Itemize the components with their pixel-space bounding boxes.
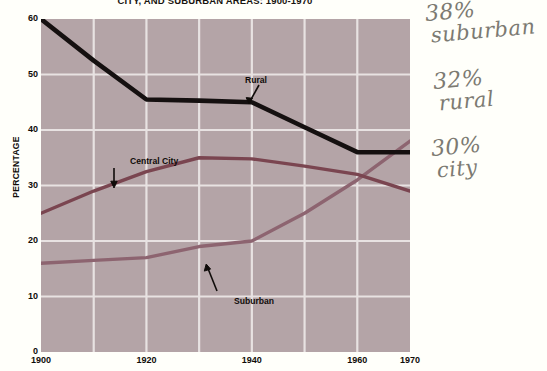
horizontal-gridlines	[41, 75, 410, 297]
suburban-leader-arrowhead	[204, 264, 210, 271]
y-tick-60: 60	[2, 13, 38, 23]
annotation-leaders	[111, 85, 259, 291]
handwritten-note-suburban: 38% suburban	[424, 0, 536, 47]
series-label-central-city: Central City	[130, 156, 178, 166]
x-tick-1900: 1900	[16, 355, 66, 365]
x-tick-1920: 1920	[121, 355, 171, 365]
y-tick-20: 20	[2, 235, 38, 245]
series-label-rural: Rural	[245, 75, 267, 85]
y-tick-10: 10	[2, 291, 38, 301]
series-line-rural	[41, 19, 410, 152]
x-tick-1960: 1960	[332, 355, 382, 365]
y-tick-50: 50	[2, 69, 38, 79]
y-tick-30: 30	[2, 180, 38, 190]
chart-page: CITY, AND SUBURBAN AREAS: 1900-1970 PERC…	[0, 0, 547, 371]
y-tick-40: 40	[2, 124, 38, 134]
series-label-suburban: Suburban	[234, 296, 274, 306]
y-axis-tick-labels: 60 50 40 30 20 10 0	[0, 19, 38, 352]
handwritten-note-rural-label: rural	[438, 88, 495, 115]
x-tick-1940: 1940	[227, 355, 277, 365]
handwritten-note-city: 30% city	[430, 133, 484, 182]
chart-canvas	[41, 19, 410, 352]
chart-title: CITY, AND SUBURBAN AREAS: 1900-1970	[55, 0, 375, 6]
handwritten-note-rural: 32% rural	[432, 65, 495, 115]
x-tick-1970: 1970	[385, 355, 435, 365]
plot-area: Rural Central City Suburban	[41, 19, 410, 352]
x-axis-tick-labels: 1900 1920 1940 1960 1970	[41, 355, 410, 369]
handwritten-note-city-label: city	[436, 156, 484, 182]
